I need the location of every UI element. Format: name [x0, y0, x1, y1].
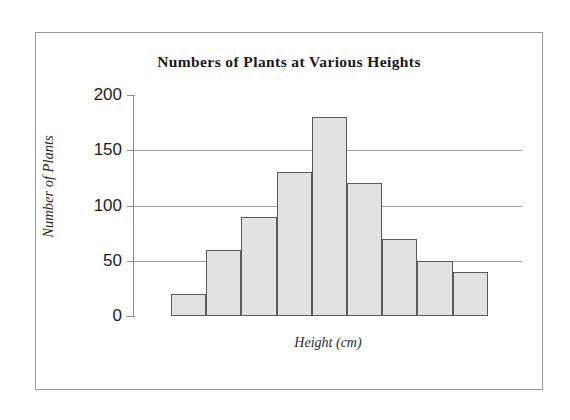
y-tick-label-200: 200: [62, 86, 122, 103]
y-tick-label-0: 0: [62, 307, 122, 324]
y-axis-title: Number of Plants: [40, 97, 57, 277]
bar: [453, 272, 488, 316]
bar: [171, 294, 206, 316]
y-tick-label-50: 50: [62, 252, 122, 269]
bar: [417, 261, 452, 316]
bar: [277, 172, 312, 316]
bar-series: [171, 95, 487, 316]
bar: [241, 217, 276, 316]
bar: [382, 239, 417, 316]
y-tick-label-150: 150: [62, 141, 122, 158]
y-axis-tick-labels: 050100150200: [60, 0, 122, 420]
bar: [312, 117, 347, 316]
bar: [347, 183, 382, 316]
bar: [206, 250, 241, 316]
y-tick-label-100: 100: [62, 197, 122, 214]
chart-figure: Numbers of Plants at Various Heights 050…: [0, 0, 570, 420]
x-axis-title: Height (cm): [134, 335, 522, 351]
y-tick-0: [127, 316, 135, 317]
